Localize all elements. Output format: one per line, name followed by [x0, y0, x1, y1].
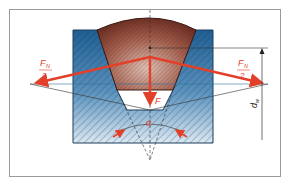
angle-label: α — [146, 118, 152, 128]
right-force-subscript: N — [244, 63, 248, 69]
left-force-denominator: 2 — [41, 71, 47, 80]
center-point — [149, 47, 152, 50]
center-force-label: F — [155, 96, 161, 106]
wedge-force-diagram: F N 2 F N 2 F α d w — [0, 0, 296, 191]
left-force-subscript: N — [46, 63, 50, 69]
right-force-denominator: 2 — [239, 71, 245, 80]
